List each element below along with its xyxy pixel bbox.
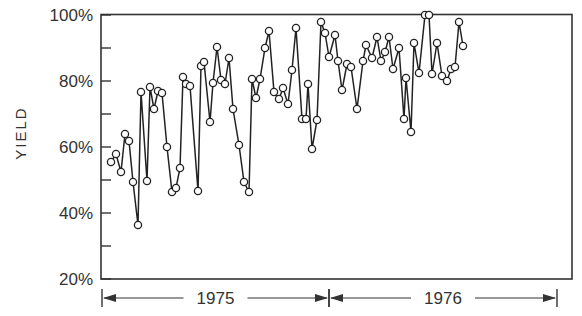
yield-chart: 100%80%60%40%20% YIELD 19751976: [0, 0, 582, 316]
data-point: [129, 178, 136, 185]
arrow-right-icon: [315, 294, 328, 302]
y-tick-label: 80%: [59, 72, 93, 91]
data-point: [400, 115, 407, 122]
y-axis-label: YIELD: [12, 106, 29, 159]
data-point: [240, 178, 247, 185]
data-point: [325, 53, 332, 60]
data-point: [455, 18, 462, 25]
data-point: [137, 88, 144, 95]
data-point: [373, 33, 380, 40]
data-point: [213, 43, 220, 50]
data-point: [389, 65, 396, 72]
data-point: [150, 105, 157, 112]
data-point: [261, 44, 268, 51]
data-point: [107, 158, 114, 165]
data-point: [347, 63, 354, 70]
yield-line: [111, 15, 463, 225]
arrow-right-icon: [543, 294, 556, 302]
data-point: [308, 145, 315, 152]
data-point: [179, 73, 186, 80]
data-point: [245, 188, 252, 195]
data-point: [284, 100, 291, 107]
period-label: 1975: [197, 289, 235, 308]
data-point: [146, 83, 153, 90]
data-point: [134, 221, 141, 228]
data-point: [334, 57, 341, 64]
data-point: [172, 184, 179, 191]
data-point: [304, 80, 311, 87]
data-point: [385, 33, 392, 40]
data-point: [292, 24, 299, 31]
data-point: [353, 105, 360, 112]
data-point: [248, 75, 255, 82]
data-point: [331, 31, 338, 38]
data-point: [317, 18, 324, 25]
data-point: [270, 88, 277, 95]
data-point: [433, 39, 440, 46]
data-point: [112, 150, 119, 157]
data-point: [451, 63, 458, 70]
data-point: [313, 116, 320, 123]
data-point: [176, 164, 183, 171]
data-point: [229, 105, 236, 112]
data-point: [368, 54, 375, 61]
data-point: [265, 27, 272, 34]
data-point: [302, 115, 309, 122]
data-point: [186, 82, 193, 89]
data-point: [377, 57, 384, 64]
data-point: [381, 48, 388, 55]
data-point: [279, 84, 286, 91]
data-point: [209, 79, 216, 86]
data-point: [143, 177, 150, 184]
data-point: [428, 70, 435, 77]
data-point: [194, 187, 201, 194]
data-point: [459, 42, 466, 49]
data-point: [338, 86, 345, 93]
data-point: [443, 77, 450, 84]
x-axis-periods: 19751976: [102, 289, 557, 308]
data-point: [163, 143, 170, 150]
data-point: [410, 39, 417, 46]
arrow-left-icon: [103, 294, 116, 302]
y-axis: 100%80%60%40%20%: [50, 6, 93, 289]
data-point: [362, 41, 369, 48]
arrow-left-icon: [330, 294, 343, 302]
yield-series: [107, 11, 466, 228]
data-point: [425, 11, 432, 18]
data-point: [275, 95, 282, 102]
data-point: [288, 66, 295, 73]
data-point: [359, 57, 366, 64]
data-point: [121, 130, 128, 137]
data-point: [407, 128, 414, 135]
data-point: [200, 58, 207, 65]
data-point: [235, 141, 242, 148]
data-point: [402, 74, 409, 81]
y-tick-label: 100%: [50, 6, 93, 25]
y-minor-ticks: [101, 15, 111, 279]
data-point: [321, 29, 328, 36]
data-point: [221, 80, 228, 87]
y-tick-label: 60%: [59, 138, 93, 157]
period-label: 1976: [424, 289, 462, 308]
data-point: [252, 94, 259, 101]
data-point: [395, 44, 402, 51]
data-point: [225, 54, 232, 61]
data-point: [125, 137, 132, 144]
data-point: [415, 69, 422, 76]
data-point: [117, 168, 124, 175]
data-point: [206, 118, 213, 125]
data-point: [256, 75, 263, 82]
y-tick-label: 40%: [59, 204, 93, 223]
data-point: [158, 89, 165, 96]
y-tick-label: 20%: [59, 270, 93, 289]
